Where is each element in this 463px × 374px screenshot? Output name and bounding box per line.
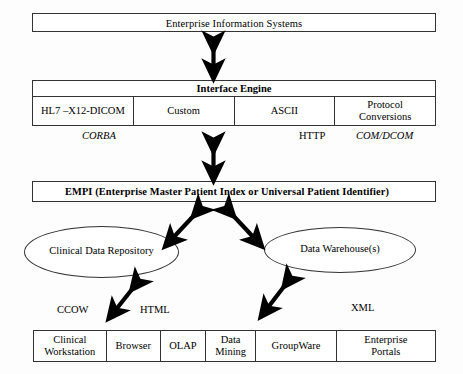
application-cell-clinical-workstation: Clinical Workstation — [34, 331, 107, 362]
interface-engine-title-row: Interface Engine — [33, 81, 436, 97]
clinical-workstation-line2: Workstation — [44, 346, 95, 357]
clinical-data-repository-ellipse: Clinical Data Repository — [24, 226, 179, 278]
applications-table: Clinical Workstation Browser OLAP Data M… — [33, 330, 436, 362]
empi-label: EMPI (Enterprise Master Patient Index or… — [33, 187, 435, 197]
interface-engine-title: Interface Engine — [33, 81, 436, 97]
protocol-conversions-line2: Conversions — [359, 111, 412, 122]
enterprise-portals-line1: Enterprise — [364, 334, 407, 345]
data-warehouse-ellipse: Data Warehouse(s) — [264, 227, 416, 273]
application-cell-olap: OLAP — [160, 331, 205, 362]
arrow-data-warehouse-to-applications — [266, 280, 289, 310]
clinical-data-repository-label: Clinical Data Repository — [49, 246, 153, 257]
interface-engine-cell-hl7: HL7 –X12-DICOM — [33, 97, 134, 126]
arrow-empi-to-data-warehouse — [228, 210, 256, 240]
data-mining-line2: Mining — [215, 346, 246, 357]
applications-row: Clinical Workstation Browser OLAP Data M… — [34, 331, 436, 362]
protocol-label-html: HTML — [140, 305, 170, 316]
diagram-canvas: Enterprise Information Systems Interface… — [0, 0, 463, 374]
application-cell-enterprise-portals: Enterprise Portals — [336, 331, 435, 362]
enterprise-portals-line2: Portals — [371, 346, 400, 357]
empi-box: EMPI (Enterprise Master Patient Index or… — [32, 181, 436, 202]
protocol-label-xml: XML — [351, 303, 374, 314]
protocol-label-corba: CORBA — [82, 131, 116, 142]
protocol-label-com-dcom: COM/DCOM — [356, 131, 413, 142]
interface-engine-table: Interface Engine HL7 –X12-DICOM Custom A… — [32, 80, 436, 126]
application-cell-groupware: GroupWare — [256, 331, 337, 362]
application-cell-data-mining: Data Mining — [206, 331, 256, 362]
interface-engine-cell-custom: Custom — [133, 97, 234, 126]
data-mining-line1: Data — [221, 334, 241, 345]
arrow-empi-to-clinical-data-repository — [171, 210, 199, 240]
interface-engine-cell-protocol-conversions: Protocol Conversions — [335, 97, 436, 126]
enterprise-information-systems-label: Enterprise Information Systems — [33, 19, 435, 30]
application-cell-browser: Browser — [106, 331, 160, 362]
protocol-label-http: HTTP — [299, 131, 325, 142]
protocol-label-ccow: CCOW — [57, 305, 89, 316]
data-warehouse-label: Data Warehouse(s) — [300, 244, 380, 255]
arrow-clinical-data-repository-to-applications — [114, 283, 137, 312]
clinical-workstation-line1: Clinical — [53, 334, 86, 345]
interface-engine-cell-ascii: ASCII — [234, 97, 335, 126]
enterprise-information-systems-box: Enterprise Information Systems — [32, 13, 436, 32]
protocol-conversions-line1: Protocol — [367, 99, 403, 110]
interface-engine-cells-row: HL7 –X12-DICOM Custom ASCII Protocol Con… — [33, 97, 436, 126]
